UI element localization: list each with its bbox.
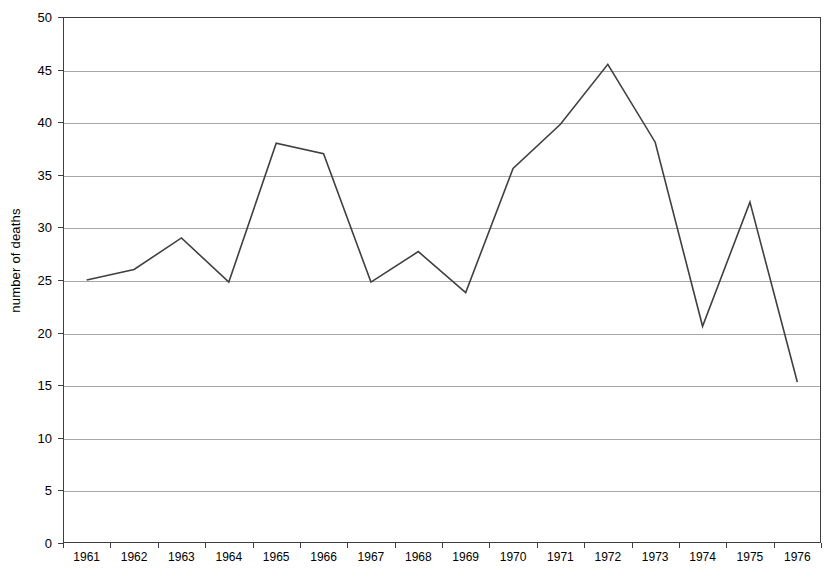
x-tick-mark <box>205 543 206 548</box>
x-tick-mark <box>821 543 822 548</box>
x-tick-label: 1971 <box>547 551 574 563</box>
y-tick-label: 25 <box>22 274 52 287</box>
x-tick-label: 1976 <box>784 551 811 563</box>
data-line-layer <box>63 17 821 543</box>
y-tick-label: 40 <box>22 116 52 129</box>
x-tick-mark <box>537 543 538 548</box>
y-tick-label: 5 <box>22 484 52 497</box>
y-axis-title-text: number of deaths <box>8 208 23 312</box>
x-tick-label: 1961 <box>73 551 100 563</box>
x-tick-mark <box>774 543 775 548</box>
y-tick-label: 50 <box>22 11 52 24</box>
x-tick-mark <box>679 543 680 548</box>
x-tick-label: 1975 <box>737 551 764 563</box>
y-tick-label: 45 <box>22 63 52 76</box>
x-tick-label: 1970 <box>500 551 527 563</box>
y-tick-label: 10 <box>22 431 52 444</box>
x-tick-mark <box>584 543 585 548</box>
x-tick-label: 1962 <box>121 551 148 563</box>
x-tick-mark <box>63 543 64 548</box>
line-chart: number of deaths 05101520253035404550 19… <box>0 0 837 585</box>
x-tick-mark <box>110 543 111 548</box>
y-tick-label: 30 <box>22 221 52 234</box>
x-tick-label: 1969 <box>452 551 479 563</box>
x-tick-label: 1963 <box>168 551 195 563</box>
x-tick-mark <box>726 543 727 548</box>
y-tick-label: 35 <box>22 168 52 181</box>
x-tick-mark <box>395 543 396 548</box>
x-tick-mark <box>442 543 443 548</box>
x-tick-label: 1964 <box>215 551 242 563</box>
x-tick-mark <box>347 543 348 548</box>
x-tick-mark <box>300 543 301 548</box>
x-tick-mark <box>632 543 633 548</box>
y-tick-label: 15 <box>22 379 52 392</box>
x-tick-label: 1965 <box>263 551 290 563</box>
x-tick-mark <box>158 543 159 548</box>
y-tick-label: 20 <box>22 326 52 339</box>
x-tick-label: 1967 <box>358 551 385 563</box>
x-tick-label: 1973 <box>642 551 669 563</box>
x-tick-label: 1968 <box>405 551 432 563</box>
data-series-line <box>87 64 798 382</box>
x-tick-label: 1974 <box>689 551 716 563</box>
x-tick-mark <box>489 543 490 548</box>
x-tick-label: 1972 <box>594 551 621 563</box>
y-tick-label: 0 <box>22 537 52 550</box>
x-tick-mark <box>253 543 254 548</box>
x-tick-label: 1966 <box>310 551 337 563</box>
